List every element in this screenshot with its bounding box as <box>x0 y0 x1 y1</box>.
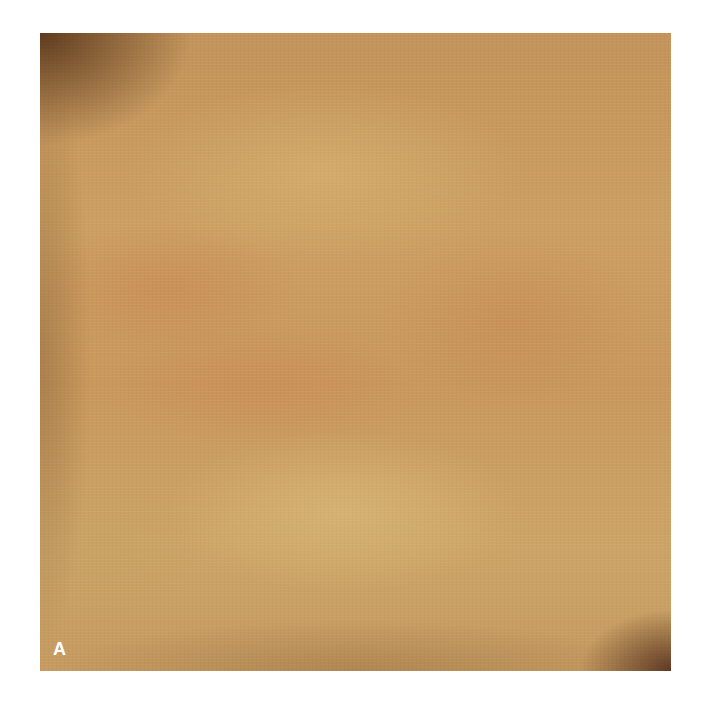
skin-photograph: A <box>40 33 671 671</box>
corner-shadow <box>40 33 671 671</box>
panel-label: A <box>53 639 66 660</box>
